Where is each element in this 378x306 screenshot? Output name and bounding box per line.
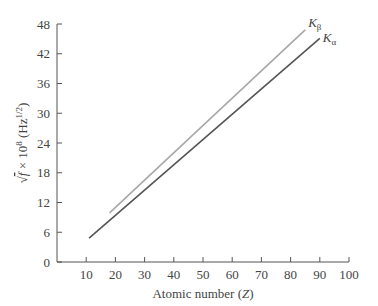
y-tick-label: 6 [44,225,51,240]
series-label-k-alpha: Kα [322,30,337,47]
y-tick-label: 18 [37,165,50,180]
series-line-k-beta [110,30,306,213]
x-tick-label: 20 [109,267,122,282]
y-axis-ticks: 0612182430364248 [37,17,62,270]
y-tick-label: 42 [37,46,50,61]
x-tick-label: 100 [339,267,359,282]
x-tick-label: 10 [80,267,93,282]
y-tick-label: 36 [37,76,51,91]
chart: 0612182430364248 102030405060708090100 K… [0,0,378,306]
x-tick-label: 60 [226,267,239,282]
x-tick-label: 50 [197,267,210,282]
y-axis-title: √f × 108 (Hz1/2) [14,103,30,184]
x-tick-label: 30 [138,267,151,282]
x-tick-label: 90 [313,267,326,282]
series-line-k-alpha [89,38,320,238]
y-tick-label: 24 [37,136,51,151]
x-axis-ticks: 102030405060708090100 [80,257,359,282]
x-axis-title: Atomic number (Z) [152,286,253,301]
y-tick-label: 48 [37,17,50,32]
x-tick-label: 40 [167,267,180,282]
series-label-k-beta: Kβ [307,15,322,32]
y-tick-label: 30 [37,106,50,121]
x-tick-label: 70 [255,267,268,282]
y-tick-label: 0 [44,255,51,270]
y-tick-label: 12 [37,195,50,210]
plot-area: KβKα [89,15,336,238]
x-tick-label: 80 [284,267,297,282]
